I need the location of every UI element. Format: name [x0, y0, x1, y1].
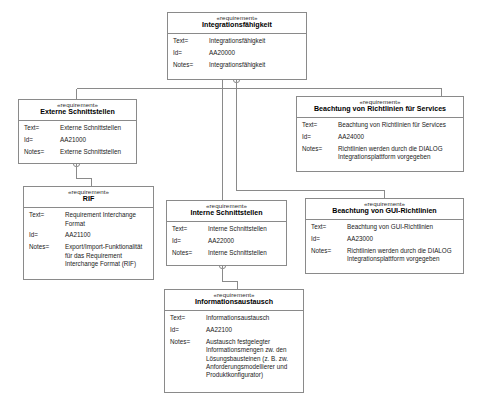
attribute-text: Text= Informationsaustausch: [170, 314, 299, 322]
attribute-value-id: AA24000: [338, 133, 459, 141]
requirement-node-interne-schnittstellen[interactable]: «requirement» Interne Schnittstellen Tex…: [166, 200, 287, 266]
attribute-key-text: Text=: [29, 211, 65, 219]
node-title: Integrationsfähigkeit: [171, 22, 303, 30]
attribute-value-notes: Interne Schnittstellen: [208, 249, 282, 257]
requirement-node-richtlinien-services[interactable]: «requirement» Beachtung von Richtlinien …: [296, 96, 464, 172]
attribute-key-text: Text=: [302, 121, 338, 129]
attribute-key-id: Id=: [311, 235, 347, 243]
attribute-key-text: Text=: [170, 314, 206, 322]
attribute-key-notes: Notes=: [29, 243, 65, 251]
attribute-value-id: AA22000: [208, 237, 282, 245]
attribute-key-text: Text=: [311, 223, 347, 231]
attribute-notes: Notes= Richtlinien werden durch die DIAL…: [311, 247, 459, 264]
node-title: Beachtung von GUI-Richtlinien: [309, 208, 460, 216]
attribute-id: Id= AA24000: [302, 133, 459, 141]
attribute-text: Text= Beachtung von GUI-Richtlinien: [311, 223, 459, 231]
attribute-key-id: Id=: [172, 237, 208, 245]
node-title: Beachtung von Richtlinien für Services: [300, 106, 460, 114]
requirement-node-gui-richtlinien[interactable]: «requirement» Beachtung von GUI-Richtlin…: [305, 198, 464, 274]
attribute-value-notes: Richtlinien werden durch die DIALOG Inte…: [347, 247, 459, 264]
attribute-key-id: Id=: [173, 49, 209, 57]
node-header: «requirement» Beachtung von GUI-Richtlin…: [306, 199, 463, 220]
requirement-node-informationsaustausch[interactable]: «requirement» Informationsaustausch Text…: [164, 289, 304, 393]
requirement-node-integrationsfaehigkeit[interactable]: «requirement» Integrationsfähigkeit Text…: [167, 12, 307, 80]
node-body: Text= Beachtung von GUI-Richtlinien Id= …: [306, 220, 463, 266]
attribute-value-notes: Austausch festgelegter Informationsmenge…: [206, 338, 299, 379]
attribute-value-text: Integrationsfähigkeit: [209, 37, 302, 45]
attribute-text: Text= Externe Schnittstellen: [24, 124, 132, 132]
attribute-key-text: Text=: [24, 124, 60, 132]
attribute-value-text: Requirement Interchange Format: [65, 211, 149, 228]
attribute-key-id: Id=: [29, 231, 65, 239]
attribute-value-notes: Integrationsfähigkeit: [209, 61, 302, 69]
node-body: Text= Interne Schnittstellen Id= AA22000…: [167, 222, 286, 260]
attribute-value-id: AA20000: [209, 49, 302, 57]
attribute-value-text: Externe Schnittstellen: [60, 124, 132, 132]
node-title: Interne Schnittstellen: [170, 210, 283, 218]
attribute-value-text: Beachtung von Richtlinien für Services: [338, 121, 459, 129]
attribute-value-notes: Richtlinien werden durch die DIALOG Inte…: [338, 145, 459, 162]
attribute-text: Text= Beachtung von Richtlinien für Serv…: [302, 121, 459, 129]
attribute-id: Id= AA23000: [311, 235, 459, 243]
node-body: Text= Beachtung von Richtlinien für Serv…: [297, 118, 463, 164]
attribute-key-text: Text=: [173, 37, 209, 45]
attribute-value-text: Interne Schnittstellen: [208, 225, 282, 233]
node-header: «requirement» RIF: [24, 187, 153, 208]
node-body: Text= Integrationsfähigkeit Id= AA20000 …: [168, 34, 306, 72]
node-header: «requirement» Interne Schnittstellen: [167, 201, 286, 222]
attribute-notes: Notes= Integrationsfähigkeit: [173, 61, 302, 69]
node-title: RIF: [27, 196, 150, 204]
attribute-id: Id= AA20000: [173, 49, 302, 57]
attribute-key-notes: Notes=: [302, 145, 338, 153]
attribute-value-id: AA23000: [347, 235, 459, 243]
node-header: «requirement» Integrationsfähigkeit: [168, 13, 306, 34]
attribute-id: Id= AA21100: [29, 231, 149, 239]
requirement-node-rif[interactable]: «requirement» RIF Text= Requirement Inte…: [23, 186, 154, 280]
attribute-value-text: Informationsaustausch: [206, 314, 299, 322]
node-title: Informationsaustausch: [168, 299, 300, 307]
attribute-value-notes: Export/Import-Funktionalität für das Req…: [65, 243, 149, 268]
node-body: Text= Requirement Interchange Format Id=…: [24, 208, 153, 271]
node-title: Externe Schnittstellen: [22, 109, 133, 117]
attribute-id: Id= AA22100: [170, 326, 299, 334]
attribute-notes: Notes= Richtlinien werden durch die DIAL…: [302, 145, 459, 162]
attribute-notes: Notes= Externe Schnittstellen: [24, 148, 132, 156]
attribute-id: Id= AA22000: [172, 237, 282, 245]
attribute-key-text: Text=: [172, 225, 208, 233]
attribute-text: Text= Interne Schnittstellen: [172, 225, 282, 233]
node-header: «requirement» Externe Schnittstellen: [19, 100, 136, 121]
attribute-value-notes: Externe Schnittstellen: [60, 148, 132, 156]
attribute-key-id: Id=: [302, 133, 338, 141]
attribute-id: Id= AA21000: [24, 136, 132, 144]
attribute-notes: Notes= Austausch festgelegter Informatio…: [170, 338, 299, 379]
attribute-text: Text= Integrationsfähigkeit: [173, 37, 302, 45]
node-body: Text= Informationsaustausch Id= AA22100 …: [165, 311, 303, 382]
attribute-text: Text= Requirement Interchange Format: [29, 211, 149, 228]
attribute-key-notes: Notes=: [24, 148, 60, 156]
attribute-notes: Notes= Interne Schnittstellen: [172, 249, 282, 257]
requirements-diagram: «requirement» Integrationsfähigkeit Text…: [0, 0, 478, 401]
attribute-key-notes: Notes=: [311, 247, 347, 255]
attribute-value-text: Beachtung von GUI-Richtlinien: [347, 223, 459, 231]
attribute-key-id: Id=: [24, 136, 60, 144]
attribute-value-id: AA22100: [206, 326, 299, 334]
attribute-value-id: AA21000: [60, 136, 132, 144]
node-header: «requirement» Beachtung von Richtlinien …: [297, 97, 463, 118]
attribute-key-notes: Notes=: [172, 249, 208, 257]
attribute-key-id: Id=: [170, 326, 206, 334]
attribute-key-notes: Notes=: [170, 338, 206, 346]
attribute-key-notes: Notes=: [173, 61, 209, 69]
attribute-value-id: AA21100: [65, 231, 149, 239]
requirement-node-externe-schnittstellen[interactable]: «requirement» Externe Schnittstellen Tex…: [18, 99, 137, 164]
attribute-notes: Notes= Export/Import-Funktionalität für …: [29, 243, 149, 268]
node-header: «requirement» Informationsaustausch: [165, 290, 303, 311]
node-body: Text= Externe Schnittstellen Id= AA21000…: [19, 121, 136, 159]
